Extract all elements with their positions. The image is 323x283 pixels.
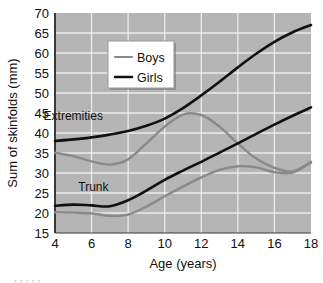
x-tick-label: 8 — [125, 236, 132, 251]
y-tick-label: 20 — [35, 206, 49, 221]
y-tick-label: 60 — [35, 46, 49, 61]
y-tick-label: 30 — [35, 166, 49, 181]
y-tick-label: 65 — [35, 26, 49, 41]
y-tick-label: 50 — [35, 86, 49, 101]
x-axis-title: Age (years) — [149, 256, 216, 271]
skinfolds-line-chart: 152025303540455055606570 4681012141618 E… — [0, 0, 323, 283]
figure-caption: , , , , , — [0, 272, 323, 283]
figure-container: 152025303540455055606570 4681012141618 E… — [0, 0, 323, 283]
annotation-extremities: Extremities — [44, 109, 103, 123]
y-tick-label: 70 — [35, 6, 49, 21]
x-tick-label: 6 — [88, 236, 95, 251]
y-tick-label: 40 — [35, 126, 49, 141]
chart-legend: BoysGirls — [108, 41, 176, 90]
legend-label-girls: Girls — [137, 71, 163, 85]
x-tick-label: 14 — [231, 236, 245, 251]
x-tick-label: 12 — [194, 236, 208, 251]
x-tick-label: 10 — [157, 236, 171, 251]
y-tick-label: 15 — [35, 226, 49, 241]
annotation-trunk: Trunk — [78, 180, 109, 194]
legend-label-boys: Boys — [137, 51, 165, 65]
y-axis-title: Sum of skinfolds (mm) — [5, 58, 20, 187]
x-tick-label: 16 — [267, 236, 281, 251]
x-tick-label: 4 — [51, 236, 58, 251]
figure-caption-strip: , , , , , — [0, 272, 323, 283]
x-tick-label: 18 — [304, 236, 318, 251]
y-tick-label: 25 — [35, 186, 49, 201]
y-tick-label: 55 — [35, 66, 49, 81]
y-tick-label: 35 — [35, 146, 49, 161]
